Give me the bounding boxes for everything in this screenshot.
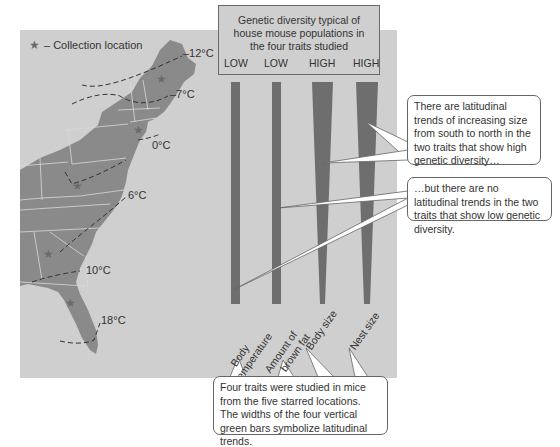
isotherm-label: 0°C (152, 139, 170, 151)
diversity-level-nest-size: HIGH (353, 57, 379, 69)
isotherm-label: 18°C (101, 314, 126, 326)
bar-body-temperature (231, 82, 240, 304)
star-icon: ★ (133, 123, 144, 137)
isotherm-label: –12°C (183, 47, 214, 59)
map-legend: ★ – Collection location (29, 38, 142, 52)
diversity-level-body-temperature: LOW (224, 57, 248, 69)
star-icon: ★ (156, 72, 167, 86)
star-icon: ★ (72, 179, 83, 193)
star-icon: ★ (65, 296, 76, 310)
isotherm-label: –7°C (170, 88, 195, 100)
star-icon: ★ (29, 38, 40, 52)
bar-nest-size (356, 82, 378, 304)
callout-high-diversity: There are latitudinal trends of increasi… (407, 95, 541, 165)
bar-body-size (312, 82, 333, 304)
legend-label: – Collection location (44, 39, 142, 51)
diversity-level-brown-fat: LOW (264, 57, 288, 69)
isotherm-label: 10°C (86, 264, 111, 276)
isotherm-label: 6°C (128, 189, 146, 201)
diversity-level-body-size: HIGH (309, 57, 335, 69)
callout-bottom-description: Four traits were studied in mice from th… (213, 376, 388, 435)
callout-low-diversity: …but there are no latitudinal trends in … (407, 177, 552, 221)
star-icon: ★ (43, 247, 54, 261)
genetic-diversity-title: Genetic diversity typical of house mouse… (219, 14, 379, 53)
trait-bars (231, 82, 378, 304)
